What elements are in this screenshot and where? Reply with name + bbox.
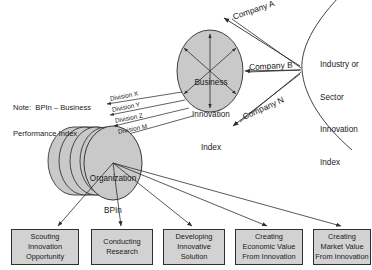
outcome-4-line-2: Market Value <box>314 242 370 252</box>
business-innovation-index-label: Business Innovation Index <box>178 56 244 175</box>
outcome-2-line-2: Innovative <box>164 242 224 252</box>
industry-label-line-2: Sector <box>320 93 372 104</box>
organization-bpin-label: Organization BPIn <box>80 152 146 239</box>
outcome-box-scouting-innovation-opportunity[interactable]: Scouting Innovation Opportunity <box>11 229 79 265</box>
bii-label-line-2: Innovation <box>178 110 244 121</box>
outcome-1-line-1: Conducting <box>92 237 152 247</box>
outcome-2-line-1: Developing <box>164 232 224 242</box>
outcome-2-line-3: Solution <box>164 252 224 262</box>
outcome-4-line-1: Creating <box>314 232 370 242</box>
outcome-box-developing-innovative-solution[interactable]: Developing Innovative Solution <box>163 229 225 265</box>
outcome-box-creating-economic-value[interactable]: Creating Economic Value From Innovation <box>235 229 303 265</box>
legend-note: Note: BPIn – Business Performance Index <box>13 87 118 155</box>
industry-label-line-4: Index <box>320 158 372 169</box>
outcome-4-line-3: From Innovation <box>314 252 370 262</box>
outcome-0-line-1: Scouting <box>12 232 78 242</box>
industry-label-line-1: Industry or <box>320 60 372 71</box>
outcome-3-line-1: Creating <box>236 232 302 242</box>
outcome-1-line-2: Research <box>92 247 152 257</box>
outcome-box-creating-market-value[interactable]: Creating Market Value From Innovation <box>313 229 371 265</box>
bii-label-line-3: Index <box>178 143 244 154</box>
industry-label-line-3: Innovation <box>320 125 372 136</box>
legend-note-line-1: Note: BPIn – Business <box>13 104 118 113</box>
outcome-0-line-2: Innovation <box>12 242 78 252</box>
bii-label-line-1: Business <box>178 78 244 89</box>
org-label-line-2: BPIn <box>80 206 146 217</box>
outcome-3-line-3: From Innovation <box>236 252 302 262</box>
outcome-0-line-3: Opportunity <box>12 252 78 262</box>
industry-sector-index-label: Industry or Sector Innovation Index <box>320 38 372 191</box>
org-label-line-1: Organization <box>80 174 146 185</box>
legend-note-line-2: Performance Index <box>13 130 118 139</box>
outcome-box-conducting-research[interactable]: Conducting Research <box>91 229 153 265</box>
outcome-3-line-2: Economic Value <box>236 242 302 252</box>
diagram-canvas: Note: BPIn – Business Performance Index … <box>0 0 372 270</box>
